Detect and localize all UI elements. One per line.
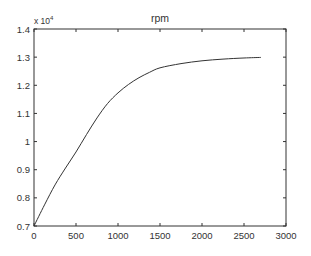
- x-tick-label: 0: [31, 230, 36, 241]
- y-tick-label: 0.7: [17, 221, 30, 232]
- x-tick-label: 1500: [149, 230, 170, 241]
- y-tick-label: 1.4: [17, 24, 30, 35]
- y-axis-ticks: 0.70.80.911.11.21.31.4: [17, 24, 286, 232]
- y-tick-label: 0.8: [17, 192, 30, 203]
- x-tick-label: 2000: [191, 230, 212, 241]
- y-scale-label: x 104: [34, 15, 54, 26]
- chart-title: rpm: [151, 12, 169, 24]
- y-tick-label: 1.1: [17, 108, 30, 119]
- x-tick-label: 500: [68, 230, 84, 241]
- y-tick-label: 1.3: [17, 52, 30, 63]
- y-tick-label: 1: [25, 136, 30, 147]
- x-tick-label: 1000: [107, 230, 128, 241]
- x-tick-label: 2500: [233, 230, 254, 241]
- plot-area-frame: [34, 29, 286, 226]
- x-tick-label: 3000: [275, 230, 296, 241]
- rpm-line-chart: rpm x 104 0.70.80.911.11.21.31.4 0500100…: [0, 0, 311, 256]
- y-tick-label: 0.9: [17, 164, 30, 175]
- rpm-series-line: [34, 57, 261, 226]
- y-tick-label: 1.2: [17, 80, 30, 91]
- x-axis-ticks: 050010001500200025003000: [31, 29, 296, 241]
